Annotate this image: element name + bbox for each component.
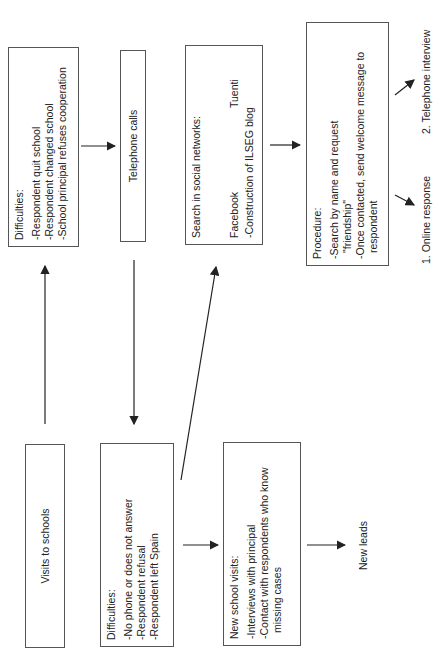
node-visits-to-schools: Visits to schools bbox=[25, 444, 65, 648]
node-title: Procedure: bbox=[311, 29, 324, 259]
node-item: respondent bbox=[367, 29, 380, 259]
node-item: -Contact with respondents who know bbox=[258, 449, 271, 639]
blog-item: -Construction of ILSEG blog bbox=[243, 107, 256, 238]
node-label: Visits to schools bbox=[39, 508, 52, 583]
node-item: missing cases bbox=[271, 449, 284, 639]
tuenti-label: Tuenti bbox=[228, 79, 241, 108]
node-title: Difficulties: bbox=[105, 450, 118, 640]
node-item: -Once contacted, send welcome message to bbox=[354, 29, 367, 259]
node-item: -Respondent left Spain bbox=[148, 450, 161, 640]
node-new-leads: New leads bbox=[357, 521, 369, 570]
node-online-response: 1. Online response bbox=[420, 176, 432, 264]
node-telephone-calls: Telephone calls bbox=[120, 50, 146, 242]
node-item: -School principal refuses cooperation bbox=[56, 54, 69, 240]
node-label: Telephone calls bbox=[127, 110, 140, 182]
node-item: -Respondent refusal bbox=[135, 450, 148, 640]
node-new-school-visits: New school visits: -Interviews with prin… bbox=[223, 442, 301, 646]
node-title: New school visits: bbox=[228, 449, 241, 639]
node-item: -Interviews with principal bbox=[245, 449, 258, 639]
node-item: -Respondent changed school bbox=[43, 54, 56, 240]
node-title: Search in social networks: bbox=[190, 52, 203, 238]
facebook-label: Facebook bbox=[228, 192, 241, 238]
flowchart: Visits to schools Difficulties: -Respond… bbox=[0, 0, 441, 664]
node-procedure: Procedure: -Search by name and request "… bbox=[306, 22, 389, 266]
node-item: -No phone or does not answer bbox=[122, 450, 135, 640]
node-item: -Search by name and request bbox=[328, 29, 341, 259]
node-item: "friendship" bbox=[341, 29, 354, 259]
node-social-networks: Search in social networks: Facebook Tuen… bbox=[185, 45, 263, 245]
node-telephone-interview: 2. Telephone interview bbox=[420, 30, 432, 134]
node-item: -Respondent quit school bbox=[30, 54, 43, 240]
node-difficulties-phone: Difficulties: -No phone or does not answ… bbox=[100, 443, 174, 647]
node-difficulties-schools: Difficulties: -Respondent quit school -R… bbox=[8, 47, 79, 247]
node-title: Difficulties: bbox=[13, 54, 26, 240]
